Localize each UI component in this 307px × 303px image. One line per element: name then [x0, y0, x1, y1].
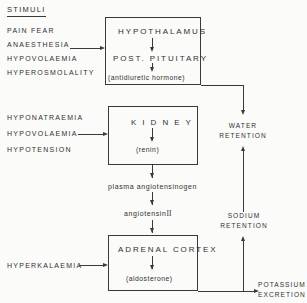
stimulus-hyperkalaemia: HYPERKALAEMIA [7, 262, 82, 269]
arrow-line-stimuli-to-adrenal [79, 265, 103, 266]
label-angiotensin-ii: angiotensinII [124, 210, 171, 218]
arrowhead-pituitary-to-adh [150, 67, 154, 72]
arrowhead-kidney-to-renin [150, 137, 154, 142]
stimulus-pain-fear: PAIN FEAR [7, 27, 55, 34]
diagram-canvas: STIMULI PAIN FEAR ANAESTHESIA HYPOVOLAEM… [0, 0, 307, 303]
label-kidney: K I D N E Y [131, 119, 193, 127]
arrowhead-kidney-to-angiotensinogen [150, 173, 154, 178]
label-plasma-angiotensinogen: plasma angiotensinogen [108, 183, 197, 190]
connector-aldosterone-to-sodium-vertical [243, 240, 244, 291]
stimulus-hypovolaemia-adh: HYPOVOLAEMIA [7, 55, 78, 62]
arrowhead-angiotensin-to-adrenal [150, 228, 154, 233]
connector-adh-to-water-rail [201, 85, 244, 86]
stimulus-hypovolaemia-renin: HYPOVOLAEMIA [7, 130, 78, 137]
label-post-pituitary: POST. PITUITARY [113, 55, 208, 63]
label-angiotensin-numeral: II [166, 209, 171, 218]
arrow-line-stimuli-to-kidney [78, 134, 103, 135]
arrowhead-hypothalamus-to-pituitary [150, 47, 154, 52]
stimulus-hyperosmolality: HYPEROSMOLALITY [7, 69, 95, 76]
label-aldosterone: (aldosterone) [126, 276, 173, 283]
label-antidiuretic-hormone: (antidiuretic hormone) [108, 75, 185, 82]
label-renin: (renin) [136, 147, 159, 154]
connector-sodium-to-water-vertical [243, 150, 244, 212]
stimuli-heading: STIMULI [7, 6, 46, 17]
label-hypothalamus: HYPOTHALAMUS [118, 28, 207, 36]
label-potassium-excretion: POTASSIUM EXCRETION [258, 280, 306, 299]
stimulus-anaesthesia: ANAESTHESIA [7, 41, 70, 48]
arrowhead-adrenal-to-aldosterone [150, 265, 154, 270]
arrowhead-to-water-retention [241, 110, 245, 115]
label-sodium-retention: SODIUM RETENTION [215, 211, 273, 230]
label-adrenal-cortex: ADRENAL CORTEX [118, 246, 218, 254]
label-water-retention: WATER RETENTION [214, 121, 272, 140]
connector-adrenal-to-potassium [198, 291, 255, 292]
stimulus-hyponatraemia: HYPONATRAEMIA [7, 114, 83, 121]
box-kidney [108, 106, 198, 165]
connector-water-rail-vertical [243, 85, 244, 112]
arrow-line-stimuli-to-hypothalamus [70, 48, 100, 49]
label-angiotensin-text: angiotensin [124, 210, 166, 217]
stimulus-hypotension: HYPOTENSION [7, 146, 72, 153]
arrowhead-angiotensinogen-to-angiotensin [150, 200, 154, 205]
